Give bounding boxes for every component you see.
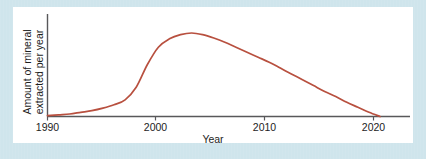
x-tick-label-2000: 2000 xyxy=(144,121,168,133)
x-tick-label-2010: 2010 xyxy=(253,121,277,133)
x-tick-label-1990: 1990 xyxy=(36,121,60,133)
line-chart: 1990 2000 2010 2020 xyxy=(13,7,413,143)
series-line-mineral-extraction xyxy=(48,33,381,117)
x-axis-label: Year xyxy=(13,133,413,145)
x-tick-label-2020: 2020 xyxy=(362,121,386,133)
chart-panel: Amount of mineral extracted per year 199… xyxy=(13,7,413,143)
figure-frame: Amount of mineral extracted per year 199… xyxy=(0,0,426,159)
